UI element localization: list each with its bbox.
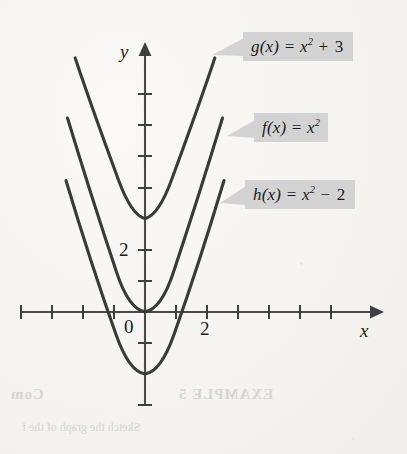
y-axis-arrowhead [139,42,152,56]
y-axis-label: y [120,41,128,63]
callout-h-constant: 2 [336,185,347,204]
leader-g [212,38,244,56]
callout-h: h(x) = x2 − 2 [245,180,355,209]
callout-f-arg: (x) [267,118,286,137]
callout-h-fn: h [253,185,262,204]
callout-f-eq: = [291,118,303,137]
callout-g-operator: + [318,37,330,56]
callout-g-var: x [300,37,308,56]
callout-f: f(x) = x2 [254,113,328,142]
leader-h [220,186,246,205]
callout-h-operator: − [320,185,332,204]
callout-h-arg: (x) [262,185,281,204]
coordinate-plane [0,0,407,454]
callout-h-var: x [302,185,310,204]
figure-canvas: EXAMPLE 5 Com Sketch the graph of the f [0,0,407,454]
callout-g-arg: (x) [260,37,279,56]
callout-g: g(x) = x2 + 3 [243,32,353,61]
callout-g-exponent: 2 [308,36,313,47]
callout-g-constant: 3 [334,37,345,56]
callout-h-exponent: 2 [310,184,315,195]
origin-label: 0 [124,316,134,338]
callout-f-exponent: 2 [315,117,320,128]
x-axis-arrowhead [370,306,384,319]
callout-g-eq: = [284,37,296,56]
x-tick-label-2: 2 [200,318,210,340]
leader-f [227,120,255,138]
callout-f-var: x [307,118,315,137]
callout-g-fn: g [251,37,260,56]
callout-h-eq: = [286,185,298,204]
y-tick-label-2: 2 [119,239,129,261]
x-axis-label: x [360,320,368,342]
